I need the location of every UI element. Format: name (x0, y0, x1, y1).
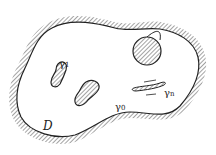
circular-hole (133, 37, 161, 65)
label-domain: D (43, 120, 53, 132)
label-gamma1: γ1 (59, 59, 69, 69)
label-gamma0: γ0 (115, 102, 125, 112)
domain-diagram (0, 0, 216, 155)
label-gamman: γn (164, 88, 175, 98)
